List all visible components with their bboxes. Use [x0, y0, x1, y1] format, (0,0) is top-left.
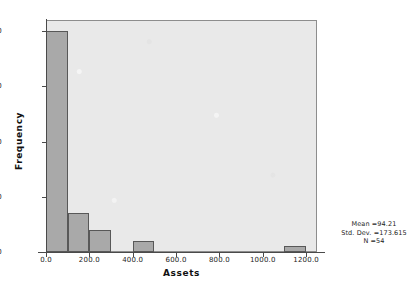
histogram-bars: [46, 20, 317, 252]
x-axis-tick-label: 400.0: [122, 256, 143, 264]
y-axis-tick: [42, 197, 46, 198]
y-axis-tick: [42, 252, 46, 253]
y-axis-tick-label: 40: [0, 27, 2, 35]
histogram-bar: [68, 213, 90, 252]
x-axis-line: [38, 252, 325, 253]
y-axis-tick-label: 10: [0, 193, 2, 201]
y-axis-title: Frequency: [14, 91, 24, 191]
x-axis-tick-label: 0.0: [40, 256, 52, 264]
histogram-bar: [46, 31, 68, 252]
y-axis-tick-label: 20: [0, 138, 2, 146]
histogram-bar: [133, 241, 155, 252]
x-axis-tick-label: 1200.0: [293, 256, 319, 264]
x-axis-tick-label: 800.0: [209, 256, 230, 264]
stat-std-dev: Std. Dev. =173.615: [330, 229, 418, 238]
y-axis-tick-label: 0: [0, 248, 2, 256]
y-axis-tick-label: 30: [0, 82, 2, 90]
stat-mean: Mean =94.21: [330, 220, 418, 229]
x-axis-tick-label: 1000.0: [250, 256, 276, 264]
statistics-annotation: Mean =94.21 Std. Dev. =173.615 N =54: [330, 220, 418, 246]
histogram-bar: [89, 230, 111, 252]
y-axis-line: [46, 19, 47, 252]
y-axis-tick: [42, 142, 46, 143]
stat-n: N =54: [330, 237, 418, 246]
x-axis-tick-label: 200.0: [79, 256, 100, 264]
y-axis-tick: [42, 86, 46, 87]
x-axis-title: Assets: [46, 268, 317, 278]
y-axis-tick: [42, 31, 46, 32]
x-axis-tick-label: 600.0: [166, 256, 187, 264]
histogram-chart: 0.0200.0400.0600.0800.01000.01200.001020…: [0, 0, 420, 291]
